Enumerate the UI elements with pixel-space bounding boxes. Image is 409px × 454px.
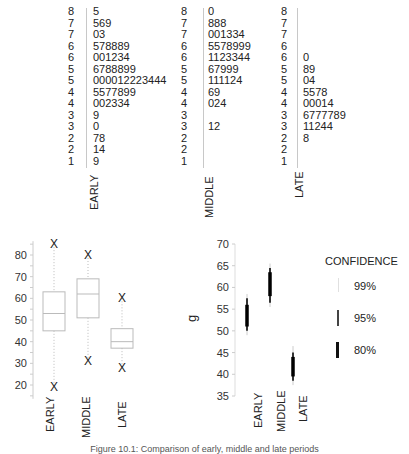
svg-text:60: 60 (15, 292, 27, 304)
ci-label-middle: MIDDLE (275, 390, 287, 432)
svg-text:65: 65 (217, 260, 229, 272)
stem-value: 6 (173, 52, 187, 64)
stem-value: 1 (273, 156, 287, 168)
legend-95-swatch (337, 310, 339, 326)
stemleaf-label-early: EARLY (88, 175, 100, 210)
ci-ylabel: g (184, 315, 199, 322)
svg-text:40: 40 (217, 368, 229, 380)
middle-divider (203, 8, 204, 168)
box-middle: XX (77, 248, 99, 368)
box-late: XX (111, 291, 133, 374)
svg-text:20: 20 (15, 379, 27, 391)
svg-text:60: 60 (217, 281, 229, 293)
leaf-values: 04 (303, 75, 315, 87)
leaf-values: 1123344 (208, 52, 250, 64)
stem-value: 8 (173, 6, 187, 18)
stem-value: 3 (173, 121, 187, 133)
stem-value: 7 (60, 29, 74, 41)
stem-value: 6 (273, 52, 287, 64)
stem-value: 1 (60, 156, 74, 168)
stem-value: 2 (173, 144, 187, 156)
legend-80-label: 80% (354, 344, 376, 356)
late-divider (297, 8, 298, 168)
leaf-values: 0 (93, 121, 99, 133)
legend-80-swatch (336, 342, 339, 358)
leaf-values: 001234 (93, 52, 130, 64)
leaf-values: 14 (93, 144, 105, 156)
stem-value: 5 (273, 75, 287, 87)
ci-label-late: LATE (297, 395, 309, 422)
svg-text:X: X (118, 291, 126, 305)
box-label-early: EARLY (44, 397, 56, 432)
stem-value: 8 (60, 6, 74, 18)
stem-value: 5 (173, 75, 187, 87)
svg-text:70: 70 (15, 271, 27, 283)
leaf-values: 03 (93, 29, 105, 41)
legend-95-label: 95% (354, 312, 376, 324)
leaf-values: 00014 (303, 98, 334, 110)
stem-value: 6 (60, 52, 74, 64)
leaf-values: 0 (208, 6, 214, 18)
leaf-values: 0 (303, 52, 309, 64)
svg-text:55: 55 (217, 303, 229, 315)
stem-value: 2 (60, 144, 74, 156)
legend-99-label: 99% (354, 280, 376, 292)
leaf-values: 11244 (303, 121, 333, 133)
svg-text:50: 50 (217, 325, 229, 337)
svg-text:40: 40 (15, 336, 27, 348)
stem-value: 2 (273, 144, 287, 156)
legend-title: CONFIDENCE (325, 255, 398, 267)
svg-text:50: 50 (15, 314, 27, 326)
svg-text:X: X (84, 354, 92, 368)
svg-text:35: 35 (217, 390, 229, 402)
stem-value: 7 (173, 29, 187, 41)
stem-value: 3 (273, 121, 287, 133)
stem-value: 4 (173, 98, 187, 110)
svg-text:X: X (50, 380, 58, 394)
early-divider (86, 8, 87, 168)
figure-caption: Figure 10.1: Comparison of early, middle… (0, 444, 409, 454)
confidence-interval-chart: 3540455055606570 (190, 230, 310, 410)
box-label-late: LATE (116, 401, 128, 428)
svg-text:30: 30 (15, 357, 27, 369)
stemleaf-label-late: LATE (293, 171, 305, 198)
svg-text:70: 70 (217, 238, 229, 250)
leaf-values: 002334 (93, 98, 130, 110)
svg-text:X: X (84, 248, 92, 262)
stem-value: 1 (173, 156, 187, 168)
box-label-middle: MIDDLE (80, 396, 92, 438)
stem-value: 4 (60, 98, 74, 110)
box-early: XX (43, 237, 65, 394)
leaf-values: 12 (208, 121, 220, 133)
leaf-values: 001334 (208, 29, 245, 41)
leaf-values: 5 (93, 6, 99, 18)
ci-label-early: EARLY (252, 393, 264, 428)
stemleaf-label-middle: MIDDLE (203, 176, 215, 218)
stem-value: 8 (273, 6, 287, 18)
stem-value: 3 (60, 121, 74, 133)
leaf-values: 9 (93, 156, 99, 168)
stem-value: 5 (60, 75, 74, 87)
svg-text:45: 45 (217, 347, 229, 359)
leaf-values: 024 (208, 98, 226, 110)
legend-99-swatch (338, 278, 339, 292)
svg-text:80: 80 (15, 249, 27, 261)
stem-value: 7 (273, 29, 287, 41)
leaf-values: 111124 (208, 75, 242, 87)
stem-value: 4 (273, 98, 287, 110)
leaf-values: 000012223444 (93, 75, 166, 87)
leaf-values: 8 (303, 133, 309, 145)
svg-text:X: X (50, 237, 58, 251)
svg-text:X: X (118, 361, 126, 375)
